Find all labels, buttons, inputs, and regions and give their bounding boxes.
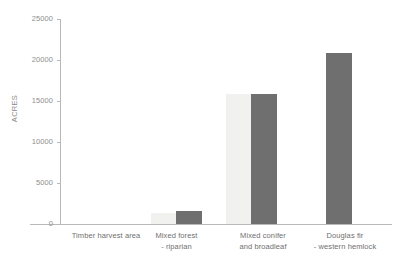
bar-mixed-forest-riparian-dark	[176, 211, 202, 224]
y-tick-label-10000: 10000	[32, 137, 53, 146]
plot-area	[61, 19, 391, 224]
y-tick-label-15000: 15000	[32, 96, 53, 105]
y-tick-label-5000: 5000	[36, 178, 53, 187]
bar-mixed-forest-riparian-light	[151, 213, 177, 224]
x-axis-line	[30, 224, 392, 225]
bar-chart: ACRES 0 5000 10000 15000 20000 25000 Tim…	[0, 0, 402, 277]
y-tick-label-25000: 25000	[32, 14, 53, 23]
bar-mixed-conifer-and-broadleaf-dark	[251, 94, 277, 224]
y-axis-title: ACRES	[10, 79, 19, 139]
bar-douglas-fir-western-hemlock-dark	[326, 53, 352, 224]
y-tick-label-0: 0	[49, 219, 53, 228]
y-tick-label-20000: 20000	[32, 55, 53, 64]
category-label-douglas-fir-western-hemlock: Douglas fir - western hemlock	[288, 231, 402, 252]
bar-mixed-conifer-and-broadleaf-light	[226, 94, 252, 224]
y-tick-mark-0	[57, 224, 61, 225]
